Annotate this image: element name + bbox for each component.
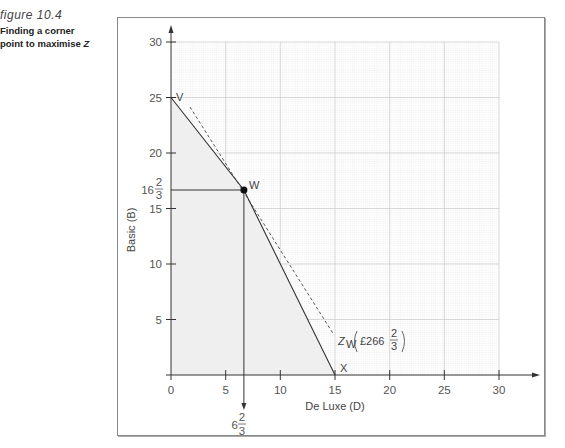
y-axis-arrow-icon bbox=[169, 25, 174, 33]
w-down-arrow-icon bbox=[241, 403, 246, 410]
w-y-value-label: 16 2 3 bbox=[141, 176, 163, 201]
svg-text:15: 15 bbox=[149, 203, 162, 215]
svg-text:£266: £266 bbox=[360, 335, 384, 347]
svg-text:Z: Z bbox=[337, 335, 346, 347]
svg-text:2: 2 bbox=[239, 411, 245, 423]
label-v: V bbox=[176, 91, 184, 103]
svg-text:30: 30 bbox=[149, 36, 162, 48]
svg-text:5: 5 bbox=[156, 314, 162, 326]
svg-text:3: 3 bbox=[156, 189, 162, 201]
svg-text:25: 25 bbox=[149, 92, 162, 104]
svg-text:0: 0 bbox=[168, 384, 174, 396]
svg-text:3: 3 bbox=[391, 340, 397, 352]
chart: 0 5 10 15 20 25 30 5 10 15 20 25 30 De L… bbox=[0, 0, 565, 448]
svg-text:2: 2 bbox=[156, 176, 162, 188]
svg-text:2: 2 bbox=[391, 327, 397, 339]
w-x-value-label: 6 2 3 bbox=[232, 411, 246, 437]
y-axis-title: Basic (B) bbox=[125, 208, 137, 253]
svg-text:10: 10 bbox=[274, 384, 287, 396]
svg-text:10: 10 bbox=[149, 258, 162, 270]
x-tick-labels: 0 5 10 15 20 25 30 bbox=[168, 384, 506, 396]
point-w-marker bbox=[240, 187, 247, 194]
svg-text:20: 20 bbox=[149, 147, 162, 159]
label-w: W bbox=[249, 179, 260, 191]
svg-text:6: 6 bbox=[232, 419, 238, 431]
svg-text:30: 30 bbox=[493, 384, 506, 396]
svg-text:20: 20 bbox=[383, 384, 396, 396]
label-x: X bbox=[340, 362, 348, 374]
svg-text:5: 5 bbox=[222, 384, 228, 396]
svg-text:15: 15 bbox=[329, 384, 342, 396]
x-axis-title: De Luxe (D) bbox=[305, 400, 364, 412]
x-axis-arrow-icon bbox=[532, 373, 540, 378]
svg-text:3: 3 bbox=[239, 425, 245, 437]
svg-text:16: 16 bbox=[141, 184, 154, 196]
svg-text:25: 25 bbox=[438, 384, 451, 396]
